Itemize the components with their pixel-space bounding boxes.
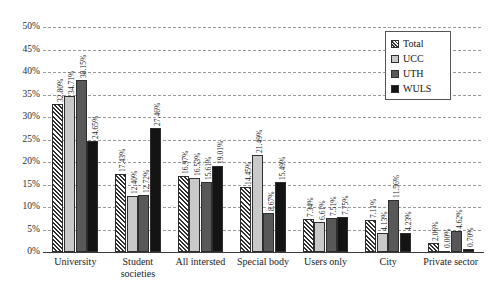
bar-ucc: 4.13% xyxy=(377,233,388,252)
legend-item-label: UCC xyxy=(403,54,424,64)
legend-swatch-icon xyxy=(391,85,399,93)
chart-legend: TotalUCCUTHWULS xyxy=(385,31,451,100)
x-axis-category-line: Student xyxy=(107,256,170,268)
bar-value-label: 0.70% xyxy=(467,227,475,247)
y-axis-tick-label: 15% xyxy=(0,180,40,190)
bar-value-label: 24.65% xyxy=(91,116,99,139)
bar-ucc: 0.00% xyxy=(439,251,450,252)
x-axis-category-line: Special body xyxy=(232,256,295,268)
bar-uth: 7.51% xyxy=(326,218,337,252)
bar-wuls: 4.23% xyxy=(400,233,411,252)
x-axis-category-label: Private sector xyxy=(419,256,482,268)
bar-ucc: 6.61% xyxy=(314,222,325,252)
bar-value-label: 16.53% xyxy=(193,152,201,175)
bar-uth: 8.67% xyxy=(263,213,274,252)
y-axis-tick-label: 5% xyxy=(0,225,40,235)
x-axis-category-label: City xyxy=(357,256,420,268)
y-axis-tick-label: 10% xyxy=(0,202,40,212)
bar-total: 7.34% xyxy=(303,219,314,252)
bar-group: 17.43%12.40%12.72%27.46% xyxy=(107,0,170,252)
y-axis-tick-label: 25% xyxy=(0,135,40,145)
bar-total: 17.43% xyxy=(115,174,126,252)
x-axis-category-line: societies xyxy=(107,268,170,280)
bar-value-label: 7.51% xyxy=(330,197,338,217)
bar-wuls: 15.49% xyxy=(275,182,286,252)
bar-value-label: 7.11% xyxy=(369,199,377,218)
y-axis: 0%5%10%15%20%25%30%35%40%45%50% xyxy=(0,0,40,290)
bar-value-label: 19.01% xyxy=(216,141,224,164)
legend-swatch-icon xyxy=(391,40,399,48)
x-axis-category-label: Studentsocieties xyxy=(107,256,170,280)
x-axis-category-line: All intersted xyxy=(169,256,232,268)
bar-value-label: 2.06% xyxy=(432,221,440,241)
bar-chart: 0%5%10%15%20%25%30%35%40%45%50% 32.80%34… xyxy=(0,0,488,290)
y-axis-tick-label: 30% xyxy=(0,112,40,122)
bar-value-label: 4.62% xyxy=(455,210,463,230)
y-axis-tick-label: 20% xyxy=(0,157,40,167)
x-axis-category-label: University xyxy=(44,256,107,268)
bar-value-label: 12.40% xyxy=(131,171,139,194)
bar-uth: 15.61% xyxy=(201,182,212,252)
x-axis-category-line: Private sector xyxy=(419,256,482,268)
bar-uth: 12.72% xyxy=(138,195,149,252)
bar-wuls: 27.46% xyxy=(150,128,161,252)
bar-ucc: 12.40% xyxy=(127,196,138,252)
x-axis-category-line: City xyxy=(357,256,420,268)
legend-item-wuls[interactable]: WULS xyxy=(391,81,446,96)
legend-item-total[interactable]: Total xyxy=(391,36,446,51)
y-axis-tick-label: 40% xyxy=(0,67,40,77)
legend-swatch-icon xyxy=(391,70,399,78)
bar-group: 14.45%21.49%8.67%15.49% xyxy=(232,0,295,252)
bar-group: 7.34%6.61%7.51%7.75% xyxy=(294,0,357,252)
x-axis-category-label: All intersted xyxy=(169,256,232,268)
x-axis-category-label: Special body xyxy=(232,256,295,268)
legend-item-label: WULS xyxy=(403,84,431,94)
bar-ucc: 34.71% xyxy=(64,96,75,252)
bar-total: 2.06% xyxy=(428,243,439,252)
bar-total: 16.97% xyxy=(178,176,189,252)
bar-total: 32.80% xyxy=(52,104,63,252)
bar-value-label: 38.15% xyxy=(80,55,88,78)
bar-uth: 11.56% xyxy=(388,200,399,252)
bar-value-label: 17.43% xyxy=(119,148,127,171)
bar-value-label: 4.23% xyxy=(404,211,412,231)
y-axis-tick-label: 45% xyxy=(0,45,40,55)
bar-uth: 38.15% xyxy=(76,80,87,252)
x-axis-category-line: Users only xyxy=(294,256,357,268)
bar-wuls: 19.01% xyxy=(212,166,223,252)
bar-ucc: 16.53% xyxy=(189,178,200,252)
x-axis-category-label: Users only xyxy=(294,256,357,268)
bar-value-label: 27.46% xyxy=(154,103,162,126)
bar-value-label: 15.49% xyxy=(279,157,287,180)
bar-value-label: 21.49% xyxy=(256,130,264,153)
bar-uth: 4.62% xyxy=(451,231,462,252)
bar-wuls: 0.70% xyxy=(463,249,474,252)
bar-total: 14.45% xyxy=(240,187,251,252)
legend-swatch-icon xyxy=(391,55,399,63)
y-axis-tick-label: 0% xyxy=(0,247,40,257)
legend-item-label: Total xyxy=(403,39,423,49)
legend-item-ucc[interactable]: UCC xyxy=(391,51,446,66)
x-axis-baseline xyxy=(43,252,484,253)
y-axis-tick-label: 50% xyxy=(0,22,40,32)
bar-value-label: 11.56% xyxy=(392,175,400,198)
bar-group: 16.97%16.53%15.61%19.01% xyxy=(169,0,232,252)
bar-ucc: 21.49% xyxy=(252,155,263,252)
bar-wuls: 24.65% xyxy=(87,141,98,252)
x-axis-labels: UniversityStudentsocietiesAll interstedS… xyxy=(44,256,482,290)
legend-item-uth[interactable]: UTH xyxy=(391,66,446,81)
bar-group: 32.80%34.71%38.15%24.65% xyxy=(44,0,107,252)
y-axis-tick-label: 35% xyxy=(0,90,40,100)
bar-wuls: 7.75% xyxy=(337,217,348,252)
x-axis-category-line: University xyxy=(44,256,107,268)
bar-total: 7.11% xyxy=(365,220,376,252)
legend-item-label: UTH xyxy=(403,69,424,79)
bar-value-label: 7.75% xyxy=(341,196,349,216)
bar-value-label: 7.34% xyxy=(307,197,315,217)
bar-value-label: 16.97% xyxy=(182,150,190,173)
